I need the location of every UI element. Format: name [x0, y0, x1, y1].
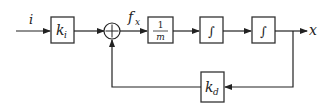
- integrator-2-block: ∫: [252, 17, 275, 43]
- input-label: i: [29, 12, 33, 27]
- summing-junction: [104, 23, 120, 39]
- inverse-mass-block: 1 m: [148, 17, 173, 43]
- kd-block: k d: [201, 72, 224, 102]
- integral-icon: ∫: [260, 24, 267, 39]
- svg-text:x: x: [135, 17, 140, 27]
- feedback-wire-left: [112, 40, 201, 87]
- force-label: f x: [127, 9, 140, 27]
- ki-sub: i: [64, 30, 67, 40]
- block-diagram: i k i f x 1 m ∫ ∫ x k: [0, 0, 335, 111]
- inv-mass-den: m: [156, 32, 165, 42]
- integral-icon: ∫: [208, 24, 215, 39]
- input-signal: i: [16, 12, 50, 31]
- inv-mass-num: 1: [158, 20, 164, 30]
- output-label: x: [309, 22, 317, 38]
- ki-block: k i: [51, 17, 74, 43]
- integrator-1-block: ∫: [200, 17, 223, 43]
- kd-sub: d: [213, 87, 219, 97]
